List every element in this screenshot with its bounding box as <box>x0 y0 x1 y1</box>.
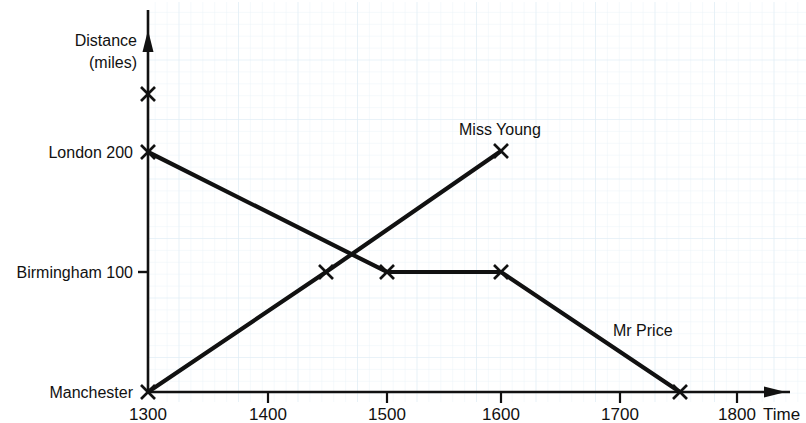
mr-price-label: Mr Price <box>613 322 673 339</box>
x-label-1700: 1700 <box>601 405 639 423</box>
y-label-london: London 200 <box>48 144 133 161</box>
x-label-1300: 1300 <box>129 405 167 423</box>
x-label-1800: 1800 <box>718 405 756 423</box>
x-axis-title: Time <box>763 405 800 423</box>
x-label-1600: 1600 <box>482 405 520 423</box>
y-axis-title-line1: Distance <box>75 32 137 49</box>
miss-young-label: Miss Young <box>459 121 541 138</box>
y-label-birmingham: Birmingham 100 <box>17 264 134 281</box>
x-label-1500: 1500 <box>368 405 406 423</box>
distance-time-graph-figure: Distance (miles) London 200 Birmingham 1… <box>0 0 806 423</box>
y-axis-title-line2: (miles) <box>89 54 137 71</box>
x-label-1400: 1400 <box>249 405 287 423</box>
y-label-manchester: Manchester <box>49 384 133 401</box>
graph-canvas: Distance (miles) London 200 Birmingham 1… <box>0 0 806 423</box>
